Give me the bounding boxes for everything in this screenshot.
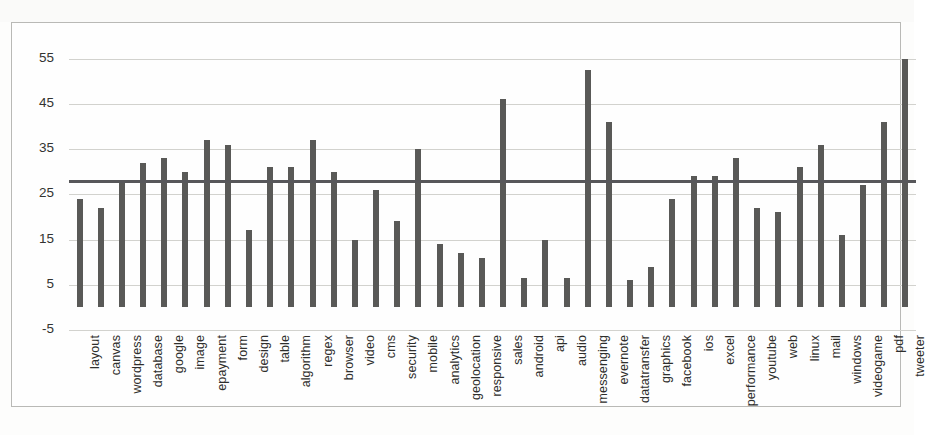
bar xyxy=(225,145,231,308)
bar xyxy=(98,208,104,308)
gridline xyxy=(69,240,916,241)
bar xyxy=(437,244,443,307)
bar xyxy=(373,190,379,308)
x-tick-label: android xyxy=(529,335,542,377)
bar xyxy=(606,122,612,307)
chart-frame: 55453525155-5 layoutcanvaswordpressdatab… xyxy=(11,22,901,407)
x-tick-label: geolocation xyxy=(466,335,479,400)
bar xyxy=(902,59,908,308)
x-axis-labels: layoutcanvaswordpressdatabasegoogleimage… xyxy=(69,335,916,427)
bar xyxy=(648,267,654,308)
bar xyxy=(288,167,294,307)
gridline xyxy=(69,330,916,331)
x-tick-label: messenging xyxy=(593,335,606,403)
x-tick-label: wordpress xyxy=(127,335,140,394)
bar xyxy=(839,235,845,307)
y-tick-label: 45 xyxy=(20,95,54,110)
x-tick-label: form xyxy=(233,335,246,360)
gridline xyxy=(69,194,916,195)
x-tick-label: canvas xyxy=(106,335,119,375)
bar xyxy=(754,208,760,308)
bar xyxy=(479,258,485,308)
x-tick-label: algorithm xyxy=(296,335,309,387)
x-tick-label: database xyxy=(148,335,161,387)
bar xyxy=(140,163,146,308)
bar xyxy=(458,253,464,307)
x-tick-label: mail xyxy=(826,335,839,358)
bar xyxy=(352,240,358,308)
gridline xyxy=(69,104,916,105)
bar xyxy=(310,140,316,307)
x-tick-label: google xyxy=(169,335,182,373)
x-tick-label: web xyxy=(783,335,796,358)
x-tick-label: analytics xyxy=(445,335,458,385)
x-tick-label: excel xyxy=(720,335,733,365)
bar xyxy=(775,212,781,307)
y-tick-label: 55 xyxy=(20,50,54,65)
y-tick-label: 5 xyxy=(20,276,54,291)
gridline xyxy=(69,149,916,150)
x-tick-label: graphics xyxy=(656,335,669,383)
x-tick-label: linux xyxy=(805,335,818,361)
bar xyxy=(182,172,188,308)
gridline xyxy=(69,285,916,286)
x-tick-label: image xyxy=(190,335,203,370)
x-tick-label: facebook xyxy=(677,335,690,387)
x-tick-label: design xyxy=(254,335,267,372)
y-tick-label: 25 xyxy=(20,185,54,200)
x-tick-label: pdf xyxy=(889,335,902,353)
bar xyxy=(860,185,866,307)
x-tick-label: videogame xyxy=(868,335,881,397)
x-tick-label: evernote xyxy=(614,335,627,384)
x-tick-label: tweeter xyxy=(910,335,923,377)
bar xyxy=(331,172,337,308)
x-tick-label: mobile xyxy=(423,335,436,372)
bar xyxy=(818,145,824,308)
x-tick-label: sales xyxy=(508,335,521,365)
x-tick-label: api xyxy=(550,335,563,352)
bar xyxy=(415,149,421,307)
x-tick-label: datatransfer xyxy=(635,335,648,403)
x-tick-label: youtube xyxy=(762,335,775,380)
bar xyxy=(564,278,570,307)
y-tick-label: 15 xyxy=(20,231,54,246)
y-tick-label: 35 xyxy=(20,140,54,155)
gridline xyxy=(69,59,916,60)
x-tick-label: audio xyxy=(572,335,585,366)
x-tick-label: cms xyxy=(381,335,394,358)
bar xyxy=(204,140,210,307)
bar xyxy=(881,122,887,307)
x-tick-label: table xyxy=(275,335,288,363)
x-tick-label: security xyxy=(402,335,415,379)
x-tick-label: regex xyxy=(318,335,331,367)
scan-margin-top xyxy=(0,0,914,22)
bar xyxy=(627,280,633,307)
x-tick-label: ios xyxy=(699,335,712,351)
bar xyxy=(246,230,252,307)
bar xyxy=(542,240,548,308)
bar xyxy=(521,278,527,307)
bar xyxy=(77,199,83,308)
bar xyxy=(712,176,718,307)
bar xyxy=(500,99,506,307)
bar xyxy=(267,167,273,307)
y-tick-label: -5 xyxy=(20,321,54,336)
x-tick-label: layout xyxy=(85,335,98,369)
bar xyxy=(394,221,400,307)
bar xyxy=(119,181,125,308)
x-tick-label: responsive xyxy=(487,335,500,396)
x-tick-label: windows xyxy=(847,335,860,384)
x-tick-label: browser xyxy=(339,335,352,380)
bar xyxy=(691,176,697,307)
plot-area xyxy=(69,45,916,330)
bar xyxy=(797,167,803,307)
x-tick-label: performance xyxy=(741,335,754,406)
bar xyxy=(585,70,591,308)
bar xyxy=(669,199,675,308)
x-tick-label: video xyxy=(360,335,373,365)
x-tick-label: epayment xyxy=(212,335,225,391)
average-trend-line xyxy=(69,180,916,183)
